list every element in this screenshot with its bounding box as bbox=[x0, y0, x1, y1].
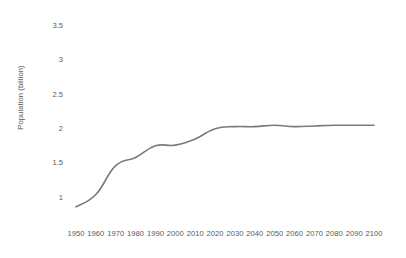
y-axis-tick-labels: 3.532.521.51 bbox=[30, 0, 63, 258]
x-axis-tick-label: 2040 bbox=[246, 229, 263, 239]
plot-area bbox=[66, 8, 384, 224]
x-axis-tick-label: 2080 bbox=[326, 229, 343, 239]
y-axis-tick-label: 3.5 bbox=[30, 21, 63, 30]
x-axis-tick-label: 2060 bbox=[286, 229, 303, 239]
population-line-chart: Population (billion) 3.532.521.51 195019… bbox=[0, 0, 406, 258]
plot-svg bbox=[66, 8, 384, 224]
y-axis-tick-label: 1 bbox=[30, 192, 63, 201]
x-axis-tick-label: 2070 bbox=[306, 229, 323, 239]
x-axis-tick-label: 2100 bbox=[366, 229, 383, 239]
y-axis-tick-label: 2.5 bbox=[30, 89, 63, 98]
y-axis-tick-label: 2 bbox=[30, 124, 63, 133]
x-axis-tick-label: 1980 bbox=[127, 229, 144, 239]
x-axis-tick-label: 1950 bbox=[67, 229, 84, 239]
x-axis-tick-label: 2000 bbox=[167, 229, 184, 239]
x-axis-tick-label: 1990 bbox=[147, 229, 164, 239]
y-axis-title: Population (billion) bbox=[16, 48, 25, 148]
x-axis-tick-label: 1960 bbox=[87, 229, 104, 239]
x-axis-tick-label: 2030 bbox=[226, 229, 243, 239]
x-axis-tick-label: 2050 bbox=[266, 229, 283, 239]
x-axis-tick-label: 2010 bbox=[187, 229, 204, 239]
x-axis-tick-labels: 1950196019701980199020002010202020302040… bbox=[0, 229, 406, 243]
y-axis-tick-label: 1.5 bbox=[30, 158, 63, 167]
x-axis-tick-label: 2020 bbox=[207, 229, 224, 239]
x-axis-tick-label: 1970 bbox=[107, 229, 124, 239]
x-axis-tick-label: 2090 bbox=[346, 229, 363, 239]
population-series-line bbox=[76, 125, 374, 207]
y-axis-tick-label: 3 bbox=[30, 55, 63, 64]
